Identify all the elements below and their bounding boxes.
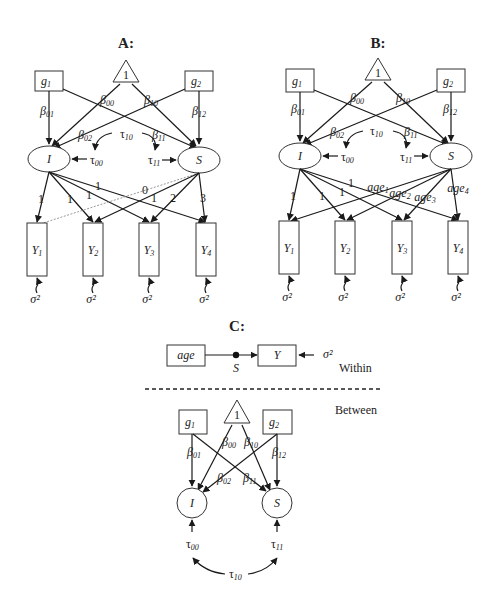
- observed-Y3: Y3: [392, 221, 412, 274]
- panel-b-title: B:: [371, 35, 386, 51]
- svg-text:β02: β02: [329, 125, 344, 140]
- svg-text:age2: age2: [389, 186, 410, 201]
- observed-Y2: Y2: [335, 221, 355, 274]
- between-level: Between 1 g1 g2 β00 β10 β01 β12 β02 β11 …: [177, 400, 377, 582]
- svg-text:τ11: τ11: [400, 150, 412, 165]
- svg-text:age4: age4: [447, 181, 468, 196]
- intercept-triangle: 1: [113, 60, 139, 82]
- panel-a: A: 1 g1 g2 β00 β10 β01 β12 β02: [27, 35, 220, 306]
- svg-text:age1: age1: [367, 180, 388, 195]
- svg-text:σ²: σ²: [395, 290, 405, 304]
- residuals-b: σ² σ² σ² σ²: [282, 276, 461, 304]
- random-slope-label: S: [233, 361, 239, 375]
- beta-02-label: β02: [77, 128, 92, 143]
- svg-text:1: 1: [375, 66, 381, 80]
- intercept-loadings: 1 1 1 1: [37, 172, 205, 222]
- observed-Y3: Y3: [139, 223, 159, 276]
- panel-b: B: 1 g1 g2 β00 β10 β01 β12 β02 β11 τ10: [279, 35, 472, 304]
- tau-00-label: τ00: [186, 537, 199, 552]
- svg-text:σ²: σ²: [199, 292, 209, 306]
- observed-Y4: Y4: [448, 221, 468, 274]
- svg-text:age3: age3: [414, 190, 435, 205]
- svg-text:τ00: τ00: [341, 150, 354, 165]
- svg-text:1: 1: [234, 408, 240, 422]
- svg-text:0: 0: [142, 183, 148, 197]
- svg-text:S: S: [196, 153, 202, 167]
- predictor-g2-box: g2: [185, 71, 213, 91]
- between-label: Between: [335, 403, 377, 417]
- svg-text:1: 1: [151, 191, 157, 205]
- tau-10-label: τ10: [120, 127, 133, 142]
- predictor-g1-box: g1: [286, 69, 314, 92]
- latent-slope-S: S: [430, 143, 472, 169]
- latent-intercept-I: I: [28, 146, 70, 172]
- within-level: age S Y σ² Within: [167, 345, 372, 375]
- svg-text:σ²: σ²: [282, 290, 292, 304]
- svg-text:S: S: [448, 149, 454, 163]
- svg-text:σ²: σ²: [142, 292, 152, 306]
- tau-11-label: τ11: [148, 153, 160, 168]
- svg-text:β10: β10: [395, 91, 410, 106]
- random-slope-dot: [233, 352, 239, 358]
- panel-a-title: A:: [118, 35, 134, 51]
- svg-text:β10: β10: [243, 435, 258, 450]
- svg-text:σ²: σ²: [86, 292, 96, 306]
- svg-text:1: 1: [123, 68, 129, 82]
- tau-00-label: τ00: [90, 153, 103, 168]
- svg-text:1: 1: [319, 189, 325, 203]
- beta-10-label: β10: [143, 93, 158, 108]
- svg-text:2: 2: [170, 191, 176, 205]
- svg-text:β12: β12: [442, 102, 457, 117]
- svg-text:τ10: τ10: [370, 124, 383, 139]
- svg-text:σ²: σ²: [30, 292, 40, 306]
- tau-10-covariance: τ10: [346, 124, 406, 148]
- panel-c-title: C:: [229, 318, 245, 334]
- svg-text:σ²: σ²: [451, 290, 461, 304]
- svg-text:β11: β11: [242, 471, 256, 486]
- intercept-triangle: 1: [365, 58, 391, 80]
- observed-Y1: Y1: [279, 221, 299, 274]
- svg-text:1: 1: [38, 192, 44, 206]
- svg-text:1: 1: [86, 188, 92, 202]
- tau-10-covariance: τ10: [95, 127, 155, 150]
- svg-text:1: 1: [67, 192, 73, 206]
- observed-Y4: Y4: [196, 223, 216, 276]
- slope-loadings: 0 1 2 3: [40, 173, 206, 224]
- residuals-a: σ² σ² σ² σ²: [30, 278, 209, 306]
- svg-text:β02: β02: [216, 471, 231, 486]
- within-residual: σ²: [323, 347, 333, 361]
- tau-11-label: τ11: [271, 537, 283, 552]
- age-node: age: [177, 348, 195, 362]
- beta-01-label: β01: [39, 104, 54, 119]
- observed-Y2: Y2: [83, 223, 103, 276]
- svg-text:σ²: σ²: [338, 290, 348, 304]
- svg-text:β01: β01: [186, 445, 201, 460]
- within-label: Within: [339, 361, 372, 375]
- svg-text:3: 3: [200, 191, 206, 205]
- svg-text:β12: β12: [271, 445, 286, 460]
- panel-c: C: age S Y σ² Within Between 1 g1 g2: [145, 318, 380, 582]
- svg-text:β00: β00: [349, 91, 364, 106]
- svg-text:S: S: [274, 496, 280, 510]
- svg-text:1: 1: [95, 179, 101, 193]
- svg-text:1: 1: [290, 189, 296, 203]
- latent-slope-S: S: [178, 147, 220, 173]
- beta-00-label: β00: [99, 93, 114, 108]
- tau-10-label: τ10: [229, 567, 242, 582]
- svg-text:1: 1: [339, 185, 345, 199]
- observed-Y1: Y1: [27, 223, 47, 276]
- beta-11-label: β11: [151, 128, 165, 143]
- svg-text:β00: β00: [221, 435, 236, 450]
- predictor-g1-box: g1: [35, 71, 63, 91]
- latent-intercept-I: I: [279, 143, 321, 169]
- diagram-canvas: A: 1 g1 g2 β00 β10 β01 β12 β02: [0, 0, 499, 608]
- svg-text:1: 1: [348, 176, 354, 190]
- svg-text:β01: β01: [290, 102, 305, 117]
- predictor-g2-box: g2: [437, 69, 465, 92]
